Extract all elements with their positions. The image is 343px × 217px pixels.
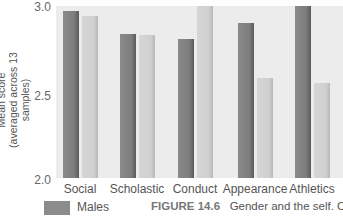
y-axis-title-line1: Mean score xyxy=(0,35,7,165)
bar-males-appearance xyxy=(238,23,254,178)
bar-females-scholastic xyxy=(139,35,155,178)
legend-label-males: Males xyxy=(77,200,109,214)
bar-females-appearance xyxy=(257,78,273,178)
bar-females-conduct xyxy=(197,6,213,178)
plot-area xyxy=(56,6,343,178)
bar-females-athletics xyxy=(314,83,330,178)
y-tick-2-5: 2.5 xyxy=(27,89,51,103)
legend-swatch-males xyxy=(44,201,70,215)
figure-number: FIGURE 14.6 xyxy=(151,200,220,212)
y-tick-3-0: 3.0 xyxy=(27,0,51,14)
bar-males-athletics xyxy=(295,6,311,178)
bar-females-social xyxy=(82,16,98,178)
bar-males-social xyxy=(63,11,79,178)
bar-males-scholastic xyxy=(120,34,136,178)
bar-males-conduct xyxy=(178,39,194,178)
x-label-athletics: Athletics xyxy=(277,182,343,196)
figure-caption-text: Gender and the self. Contributing to xyxy=(230,200,343,212)
figure-caption: FIGURE 14.6 Gender and the self. Contrib… xyxy=(151,200,343,212)
